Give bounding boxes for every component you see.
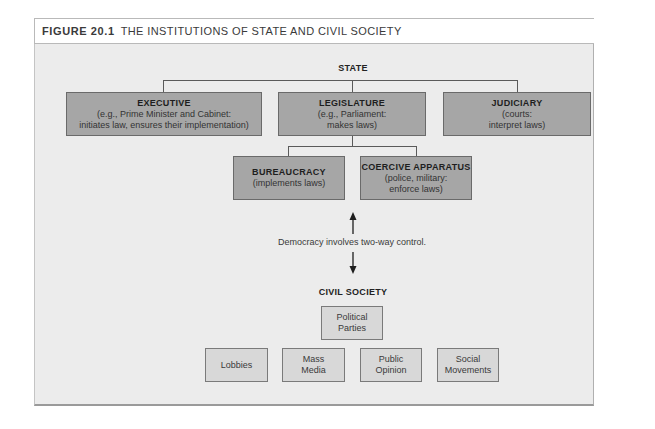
- connector-coercive: [416, 146, 417, 156]
- social-movements-line2: Movements: [445, 365, 492, 376]
- legislature-desc-1: (e.g., Parliament:: [318, 109, 387, 120]
- coercive-apparatus-box: COERCIVE APPARATUS (police, military: en…: [360, 156, 472, 200]
- connector-executive: [163, 80, 164, 92]
- arrow-up-icon: [348, 212, 358, 234]
- executive-title: EXECUTIVE: [137, 98, 191, 109]
- coercive-desc-2: enforce laws): [389, 184, 443, 195]
- mass-media-line2: Media: [301, 365, 326, 376]
- bureaucracy-desc: (implements laws): [253, 178, 326, 189]
- judiciary-title: JUDICIARY: [492, 98, 543, 109]
- figure-caption: FIGURE 20.1THE INSTITUTIONS OF STATE AND…: [42, 25, 402, 37]
- connector-sub-horizontal: [288, 146, 417, 147]
- bureaucracy-title: BUREAUCRACY: [252, 167, 326, 178]
- legislature-desc-2: makes laws): [327, 120, 377, 131]
- legislature-box: LEGISLATURE (e.g., Parliament: makes law…: [278, 92, 426, 136]
- coercive-title: COERCIVE APPARATUS: [361, 162, 470, 173]
- connector-legislature-down: [352, 136, 353, 146]
- figure-header: FIGURE 20.1THE INSTITUTIONS OF STATE AND…: [34, 18, 594, 44]
- judiciary-desc-1: (courts:: [502, 109, 532, 120]
- connector-legislature: [352, 80, 353, 92]
- social-movements-line1: Social: [456, 354, 481, 365]
- political-parties-box: Political Parties: [321, 306, 383, 340]
- judiciary-desc-2: interpret laws): [489, 120, 546, 131]
- mass-media-box: Mass Media: [282, 348, 345, 382]
- figure-title: THE INSTITUTIONS OF STATE AND CIVIL SOCI…: [121, 25, 402, 37]
- social-movements-box: Social Movements: [437, 348, 499, 382]
- executive-desc-1: (e.g., Prime Minister and Cabinet:: [97, 109, 231, 120]
- lobbies-box: Lobbies: [205, 348, 268, 382]
- executive-box: EXECUTIVE (e.g., Prime Minister and Cabi…: [66, 92, 262, 136]
- public-opinion-box: Public Opinion: [360, 348, 422, 382]
- civil-society-heading: CIVIL SOCIETY: [313, 287, 393, 297]
- connector-judiciary: [517, 80, 518, 92]
- legislature-title: LEGISLATURE: [319, 98, 385, 109]
- public-opinion-line2: Opinion: [375, 365, 406, 376]
- political-parties-line2: Parties: [338, 323, 366, 334]
- state-heading: STATE: [333, 63, 373, 73]
- arrow-down-icon: [348, 252, 358, 274]
- connector-bureaucracy: [288, 146, 289, 156]
- political-parties-line1: Political: [336, 312, 367, 323]
- bureaucracy-box: BUREAUCRACY (implements laws): [233, 156, 345, 200]
- public-opinion-line1: Public: [379, 354, 404, 365]
- two-way-control-caption: Democracy involves two-way control.: [278, 237, 426, 247]
- executive-desc-2: initiates law, ensures their implementat…: [79, 120, 249, 131]
- figure-number: FIGURE 20.1: [42, 25, 115, 37]
- coercive-desc-1: (police, military:: [385, 173, 448, 184]
- lobbies-label: Lobbies: [221, 360, 253, 371]
- mass-media-line1: Mass: [303, 354, 325, 365]
- connector-state-horizontal: [163, 80, 517, 81]
- judiciary-box: JUDICIARY (courts: interpret laws): [443, 92, 591, 136]
